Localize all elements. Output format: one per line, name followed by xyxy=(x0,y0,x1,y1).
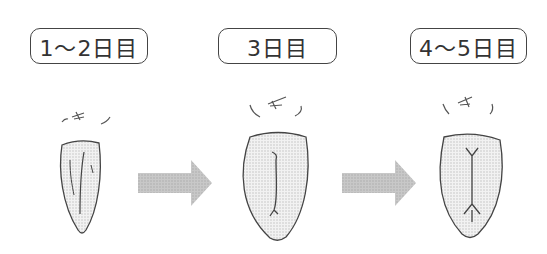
seed-stage-3 xyxy=(440,97,502,238)
arrow-icon xyxy=(342,160,416,206)
germination-diagram xyxy=(0,0,547,254)
seed-stage-2 xyxy=(243,97,308,240)
seed-stage-1 xyxy=(61,112,110,233)
arrow-icon xyxy=(138,160,212,206)
